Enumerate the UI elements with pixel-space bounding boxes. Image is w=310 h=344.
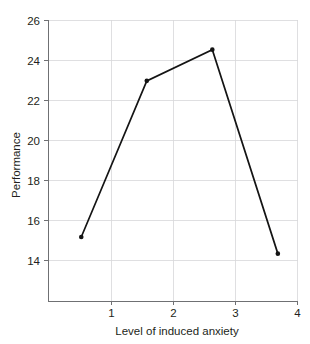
y-tick-label-20: 20 [27, 135, 40, 147]
y-tick-label-26: 26 [27, 15, 40, 27]
y-tick-label-18: 18 [27, 175, 40, 187]
plot-area-background [48, 20, 298, 301]
y-tick-label-22: 22 [27, 95, 40, 107]
y-tick-label-24: 24 [27, 55, 40, 67]
line-chart: 26 24 22 20 18 16 14 1 2 3 4 Level of in… [0, 0, 310, 344]
x-axis-title: Level of induced anxiety [115, 325, 239, 337]
y-axis-tickmarks [44, 21, 48, 261]
data-point-4 [276, 251, 281, 256]
x-tick-label-1: 1 [108, 307, 114, 319]
x-tick-label-2: 2 [170, 307, 176, 319]
y-axis-tick-labels: 26 24 22 20 18 16 14 [27, 15, 40, 267]
data-point-1 [79, 235, 84, 240]
data-point-3 [210, 47, 215, 52]
x-axis-tick-labels: 1 2 3 4 [108, 307, 301, 319]
x-tick-label-4: 4 [294, 307, 301, 319]
chart-figure: 26 24 22 20 18 16 14 1 2 3 4 Level of in… [0, 0, 310, 344]
x-tick-label-3: 3 [232, 307, 238, 319]
y-tick-label-14: 14 [27, 255, 40, 267]
y-axis-title: Performance [10, 132, 22, 198]
data-point-2 [144, 79, 149, 84]
y-tick-label-16: 16 [27, 215, 40, 227]
